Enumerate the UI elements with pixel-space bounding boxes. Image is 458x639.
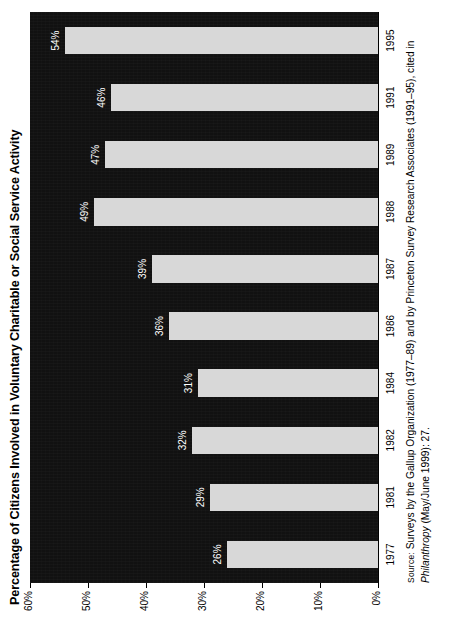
- category-label-1977: 1977: [385, 543, 396, 565]
- value-tick-30%: [204, 583, 205, 588]
- figure: Percentage of Citizens Involved in Volun…: [0, 0, 458, 639]
- value-tick-label-50%: 50%: [81, 591, 92, 611]
- bar-value-label-1987: 39%: [137, 259, 148, 279]
- value-tick-label-0%: 0%: [371, 591, 382, 605]
- source-note: Source: Surveys by the Gallup Organizati…: [404, 22, 433, 583]
- x-axis: 1977198119821984198619871988198919911995: [381, 12, 397, 583]
- value-tick-20%: [262, 583, 263, 588]
- axis-baseline: [378, 12, 379, 583]
- value-tick-50%: [88, 583, 89, 588]
- bar-1991: 46%: [111, 84, 378, 111]
- bar-1989: 47%: [105, 141, 378, 168]
- source-text-line1: Surveys by the Gallup Organization (1977…: [405, 41, 416, 550]
- value-tick-40%: [146, 583, 147, 588]
- bar-1977: 26%: [227, 541, 378, 568]
- value-tick-0%: [378, 583, 379, 588]
- value-tick-10%: [320, 583, 321, 588]
- category-label-1991: 1991: [385, 87, 396, 109]
- value-tick-label-60%: 60%: [23, 591, 34, 611]
- category-label-1988: 1988: [385, 201, 396, 223]
- source-publication-title: Philanthropy: [420, 526, 431, 583]
- value-tick-label-20%: 20%: [255, 591, 266, 611]
- plot-region: 26%29%32%31%36%39%49%47%46%54% 0%10%20%3…: [30, 12, 378, 583]
- page-title: Percentage of Citizens Involved in Volun…: [8, 5, 22, 605]
- bar-1988: 49%: [94, 198, 378, 225]
- value-tick-label-30%: 30%: [197, 591, 208, 611]
- bar-1982: 32%: [192, 427, 378, 454]
- bar-value-label-1986: 36%: [154, 316, 165, 336]
- value-tick-label-40%: 40%: [139, 591, 150, 611]
- category-label-1984: 1984: [385, 372, 396, 394]
- bar-value-label-1991: 46%: [96, 88, 107, 108]
- bar-1995: 54%: [65, 27, 378, 54]
- bar-value-label-1984: 31%: [183, 373, 194, 393]
- category-label-1995: 1995: [385, 29, 396, 51]
- bar-value-label-1988: 49%: [79, 202, 90, 222]
- rotated-figure-wrapper: Percentage of Citizens Involved in Volun…: [0, 0, 458, 639]
- bar-1986: 36%: [169, 312, 378, 339]
- category-label-1987: 1987: [385, 258, 396, 280]
- category-label-1986: 1986: [385, 315, 396, 337]
- category-label-1981: 1981: [385, 486, 396, 508]
- bar-value-label-1989: 47%: [90, 145, 101, 165]
- bar-value-label-1981: 29%: [195, 487, 206, 507]
- bar-1981: 29%: [210, 484, 378, 511]
- source-text-line2: (May/June 1999): 27.: [420, 427, 431, 526]
- bar-1984: 31%: [198, 369, 378, 396]
- bar-1987: 39%: [152, 255, 378, 282]
- value-tick-label-10%: 10%: [313, 591, 324, 611]
- category-label-1989: 1989: [385, 144, 396, 166]
- source-label: Source:: [406, 552, 416, 583]
- bar-value-label-1977: 26%: [212, 544, 223, 564]
- bar-value-label-1982: 32%: [177, 430, 188, 450]
- value-tick-60%: [30, 583, 31, 588]
- bar-value-label-1995: 54%: [50, 31, 61, 51]
- category-label-1982: 1982: [385, 429, 396, 451]
